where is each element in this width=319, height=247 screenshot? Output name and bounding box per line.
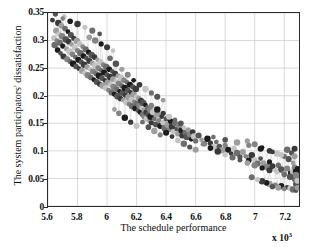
data-point xyxy=(211,135,216,140)
data-point xyxy=(163,130,169,136)
data-point xyxy=(166,114,172,120)
data-point xyxy=(193,138,198,143)
data-point xyxy=(178,120,184,126)
data-point xyxy=(293,172,299,178)
data-point xyxy=(234,139,241,145)
data-point xyxy=(140,120,145,125)
plot-area xyxy=(47,12,300,207)
data-point xyxy=(113,60,120,66)
data-point xyxy=(170,134,175,139)
data-point xyxy=(134,123,140,129)
y-axis-tick-label: 0.3 xyxy=(33,35,44,45)
data-point xyxy=(284,165,290,171)
data-point xyxy=(67,18,73,24)
x-axis-tick-label: 7 xyxy=(253,212,258,222)
data-point xyxy=(286,156,292,162)
data-point xyxy=(266,167,272,173)
exponent-power: 3 xyxy=(289,231,292,238)
data-point xyxy=(249,174,255,180)
data-point xyxy=(125,72,131,78)
x-axis-tick-label: 6.4 xyxy=(160,212,171,222)
x-axis-tick-label: 6.6 xyxy=(190,212,201,222)
y-axis-tick-mark xyxy=(44,207,48,208)
data-point xyxy=(119,67,124,72)
data-point xyxy=(161,111,166,116)
data-point xyxy=(275,185,281,191)
data-point xyxy=(259,165,264,170)
x-axis-tick-label: 5.8 xyxy=(71,212,82,222)
x-axis-title: The schedule performance xyxy=(47,222,300,233)
data-point xyxy=(251,162,258,168)
data-point xyxy=(201,142,206,147)
data-point xyxy=(158,132,163,137)
data-point xyxy=(161,98,166,103)
y-axis-title: The system participators' dissatisfactio… xyxy=(12,6,23,206)
data-point xyxy=(238,158,243,163)
data-point xyxy=(278,152,284,158)
data-point xyxy=(122,115,129,121)
exponent-base: x 10 xyxy=(272,233,289,243)
x-axis-tick-label: 6.2 xyxy=(131,212,142,222)
data-point xyxy=(142,86,149,92)
data-point xyxy=(111,48,116,53)
data-point xyxy=(128,120,133,125)
data-point xyxy=(274,170,279,175)
data-point xyxy=(89,28,95,34)
data-point xyxy=(92,37,99,43)
data-point xyxy=(50,18,55,23)
data-point xyxy=(258,156,263,161)
data-point xyxy=(104,44,110,50)
data-point xyxy=(181,140,188,146)
x-axis-tick-label: 6 xyxy=(104,212,109,222)
data-point xyxy=(230,154,236,160)
data-point xyxy=(87,34,93,40)
data-point xyxy=(292,153,298,159)
data-point xyxy=(215,148,222,154)
data-point xyxy=(255,177,260,182)
data-point xyxy=(154,106,161,112)
x-axis-tick-label: 6.8 xyxy=(220,212,231,222)
data-point xyxy=(112,107,117,112)
data-points-layer xyxy=(48,13,299,206)
data-point xyxy=(246,143,251,148)
x-axis-tick-labels: 5.65.866.26.46.66.877.2 xyxy=(47,209,300,223)
data-point xyxy=(149,90,154,95)
x-axis-tick-label: 5.6 xyxy=(41,212,52,222)
data-point xyxy=(222,137,228,143)
data-point xyxy=(193,147,199,153)
data-point xyxy=(146,124,152,130)
data-point xyxy=(196,132,202,138)
data-point xyxy=(292,146,298,152)
data-point xyxy=(240,149,246,155)
data-point xyxy=(181,125,186,130)
data-point xyxy=(282,187,287,192)
data-point xyxy=(97,32,102,37)
data-point xyxy=(187,144,192,149)
data-point xyxy=(116,111,122,117)
data-point xyxy=(245,160,251,166)
x-axis-exponent-label: x 103 xyxy=(272,231,292,243)
data-point xyxy=(214,140,219,145)
data-point xyxy=(281,172,287,178)
data-point xyxy=(208,145,214,151)
data-point xyxy=(270,150,275,155)
data-point xyxy=(131,78,136,83)
y-axis-tick-label: 0.15 xyxy=(28,118,44,128)
data-point xyxy=(74,21,81,27)
data-point xyxy=(270,184,275,189)
data-point xyxy=(154,94,160,100)
scatter-plot-figure: 00.050.10.150.20.250.30.35 5.65.866.26.4… xyxy=(0,0,319,247)
data-point xyxy=(245,138,250,143)
data-point xyxy=(137,82,143,88)
data-point xyxy=(258,146,264,152)
data-point xyxy=(60,16,65,21)
data-point xyxy=(175,138,181,144)
data-point xyxy=(82,25,87,30)
y-axis-tick-label: 0.2 xyxy=(33,91,44,101)
y-axis-tick-label: 0.05 xyxy=(28,174,44,184)
data-point xyxy=(149,103,155,109)
data-point xyxy=(53,13,58,17)
data-point xyxy=(99,41,104,46)
data-point xyxy=(173,118,178,123)
y-axis-tick-label: 0.25 xyxy=(28,63,44,73)
